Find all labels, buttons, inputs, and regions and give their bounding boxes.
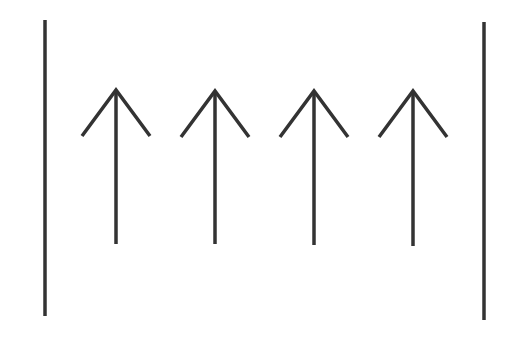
up-arrow-icon — [181, 91, 249, 244]
up-arrow-icon — [280, 91, 348, 245]
arrows-diagram — [0, 0, 508, 339]
up-arrow-icon — [82, 90, 150, 244]
up-arrow-icon — [379, 91, 447, 246]
diagram-canvas — [0, 0, 508, 339]
